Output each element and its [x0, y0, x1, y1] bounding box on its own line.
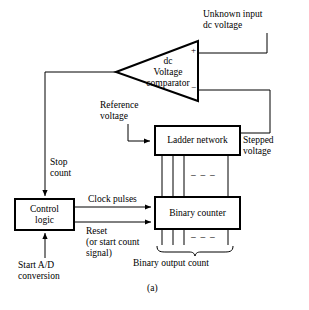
- reference-voltage-label: Reference voltage: [100, 100, 139, 122]
- comparator-label: dc Voltage comparator: [140, 48, 196, 96]
- stop-count-label: Stop count: [50, 157, 71, 179]
- comparator-minus-sign: −: [191, 82, 196, 92]
- unknown-input-label: Unknown input dc voltage: [203, 9, 262, 31]
- start-ad-conversion-label: Start A/D conversion: [18, 260, 60, 282]
- control-logic-label: Control logic: [15, 199, 74, 230]
- binary-counter-label: Binary counter: [155, 197, 240, 229]
- bus-ellipsis-label: – – –: [191, 170, 215, 181]
- ladder-network-label: Ladder network: [155, 126, 240, 155]
- output-ellipsis-label: – – –: [191, 232, 215, 243]
- stepped-voltage-label: Stepped voltage: [243, 135, 274, 157]
- block-diagram-figure: dc Voltage comparator + − Unknown input …: [0, 0, 309, 310]
- wire-reference-voltage: [128, 124, 150, 141]
- figure-caption: (a): [147, 283, 158, 293]
- binary-output-count-label: Binary output count: [133, 258, 209, 269]
- clock-pulses-label: Clock pulses: [88, 194, 137, 205]
- binary-output-brace: [157, 246, 233, 256]
- reset-label: Reset (or start count signal): [86, 226, 139, 259]
- comparator-plus-sign: +: [191, 45, 196, 55]
- wire-unknown-input: [199, 33, 267, 53]
